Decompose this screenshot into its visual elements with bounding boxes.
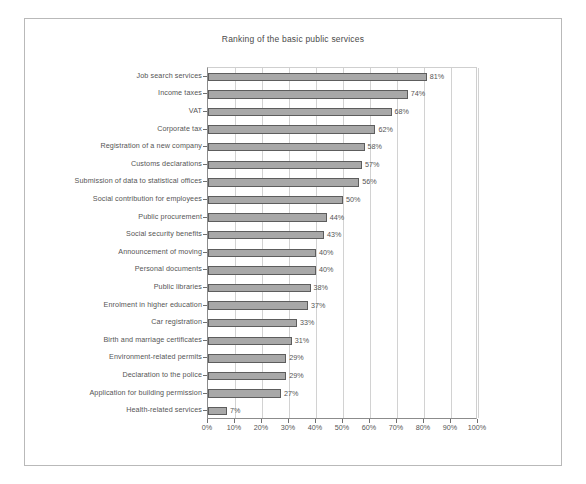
bar-value-label: 50% bbox=[346, 195, 360, 204]
bar-value-label: 29% bbox=[289, 353, 303, 362]
bar bbox=[208, 372, 286, 381]
x-axis-tick-label: 50% bbox=[335, 423, 349, 432]
bar bbox=[208, 284, 311, 293]
y-axis-tick bbox=[203, 375, 207, 376]
y-axis-tick bbox=[203, 393, 207, 394]
bar bbox=[208, 161, 362, 170]
x-axis-tick-label: 40% bbox=[308, 423, 322, 432]
y-axis-tick bbox=[203, 322, 207, 323]
chart-figure-frame: Ranking of the basic public services Job… bbox=[24, 18, 562, 466]
chart-title: Ranking of the basic public services bbox=[25, 34, 561, 44]
bar-value-label: 27% bbox=[284, 389, 298, 398]
gridline bbox=[424, 68, 425, 418]
x-axis-tick-label: 10% bbox=[227, 423, 241, 432]
y-axis-tick bbox=[203, 217, 207, 218]
bar bbox=[208, 266, 316, 275]
bar bbox=[208, 337, 292, 346]
category-label: Public procurement bbox=[138, 212, 202, 221]
y-axis-tick bbox=[203, 357, 207, 358]
y-axis-tick bbox=[203, 164, 207, 165]
x-axis-tick-label: 100% bbox=[468, 423, 486, 432]
x-axis-tick-label: 90% bbox=[443, 423, 457, 432]
x-axis-tick-label: 0% bbox=[202, 423, 212, 432]
y-axis-tick bbox=[203, 234, 207, 235]
gridline bbox=[478, 68, 479, 418]
y-axis-tick bbox=[203, 269, 207, 270]
bar bbox=[208, 319, 297, 328]
y-axis-tick bbox=[203, 340, 207, 341]
bar-value-label: 74% bbox=[411, 89, 425, 98]
category-label: VAT bbox=[189, 106, 202, 115]
category-label: Declaration to the police bbox=[122, 370, 202, 379]
bar-value-label: 37% bbox=[311, 301, 325, 310]
bar-value-label: 81% bbox=[430, 72, 444, 81]
x-axis: 0%10%20%30%40%50%60%70%80%90%100% bbox=[207, 423, 477, 439]
y-axis-tick bbox=[203, 305, 207, 306]
bar-value-label: 57% bbox=[365, 160, 379, 169]
y-axis-tick bbox=[203, 181, 207, 182]
bar-value-label: 62% bbox=[378, 125, 392, 134]
category-label: Public libraries bbox=[154, 282, 202, 291]
gridline bbox=[397, 68, 398, 418]
bar-value-label: 58% bbox=[368, 142, 382, 151]
bar bbox=[208, 354, 286, 363]
category-label: Corporate tax bbox=[157, 124, 202, 133]
category-label: Submission of data to statistical office… bbox=[75, 176, 202, 185]
bar-value-label: 40% bbox=[319, 265, 333, 274]
bar bbox=[208, 213, 327, 222]
bar-value-label: 44% bbox=[330, 213, 344, 222]
gridline bbox=[289, 68, 290, 418]
bar bbox=[208, 231, 324, 240]
bar bbox=[208, 90, 408, 99]
bar-value-label: 31% bbox=[295, 336, 309, 345]
bar-value-label: 7% bbox=[230, 406, 240, 415]
x-axis-tick-label: 70% bbox=[389, 423, 403, 432]
bar-value-label: 33% bbox=[300, 318, 314, 327]
x-axis-tick-label: 20% bbox=[254, 423, 268, 432]
y-axis-tick bbox=[203, 111, 207, 112]
category-label: Health-related services bbox=[126, 405, 202, 414]
category-label: Birth and marriage certificates bbox=[103, 335, 202, 344]
y-axis-tick bbox=[203, 76, 207, 77]
bar bbox=[208, 108, 392, 117]
category-label: Enrolment in higher education bbox=[104, 300, 202, 309]
plot-area: 81%74%68%62%58%57%56%50%44%43%40%40%38%3… bbox=[207, 67, 477, 419]
gridline bbox=[262, 68, 263, 418]
gridline bbox=[451, 68, 452, 418]
category-label: Personal documents bbox=[135, 264, 202, 273]
bar-value-label: 29% bbox=[289, 371, 303, 380]
category-label: Application for building permission bbox=[89, 388, 202, 397]
y-axis-tick bbox=[203, 410, 207, 411]
category-label-column: Job search servicesIncome taxesVATCorpor… bbox=[37, 67, 207, 419]
category-label: Announcement of moving bbox=[118, 247, 202, 256]
bar bbox=[208, 407, 227, 416]
bar-value-label: 38% bbox=[314, 283, 328, 292]
bar bbox=[208, 249, 316, 258]
category-label: Customs declarations bbox=[131, 159, 202, 168]
bar bbox=[208, 178, 359, 187]
gridline bbox=[235, 68, 236, 418]
bar bbox=[208, 125, 375, 134]
x-axis-tick-label: 60% bbox=[362, 423, 376, 432]
category-label: Environment-related permits bbox=[109, 352, 202, 361]
bar-value-label: 56% bbox=[362, 177, 376, 186]
y-axis-tick bbox=[203, 129, 207, 130]
bar bbox=[208, 143, 365, 152]
y-axis-tick bbox=[203, 93, 207, 94]
gridline bbox=[316, 68, 317, 418]
bar-value-label: 68% bbox=[395, 107, 409, 116]
y-axis-tick bbox=[203, 146, 207, 147]
category-label: Social security benefits bbox=[126, 229, 202, 238]
bar bbox=[208, 196, 343, 205]
gridline bbox=[370, 68, 371, 418]
category-label: Car registration bbox=[151, 317, 202, 326]
bar bbox=[208, 73, 427, 82]
y-axis-tick bbox=[203, 287, 207, 288]
plot-wrapper: Job search servicesIncome taxesVATCorpor… bbox=[37, 67, 477, 419]
bar-value-label: 40% bbox=[319, 248, 333, 257]
x-axis-tick-label: 30% bbox=[281, 423, 295, 432]
category-label: Registration of a new company bbox=[100, 141, 202, 150]
y-axis-tick bbox=[203, 252, 207, 253]
category-label: Job search services bbox=[137, 71, 202, 80]
bar bbox=[208, 301, 308, 310]
